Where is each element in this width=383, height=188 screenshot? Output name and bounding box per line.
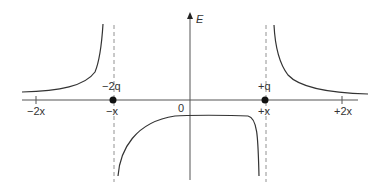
charge-label-negative: −2q: [102, 81, 121, 92]
charge-positive-q: [262, 97, 269, 104]
y-axis-label: E: [196, 14, 203, 25]
field-diagram: [0, 0, 383, 188]
curve-middle-region: [118, 115, 259, 176]
curve-right-region: [274, 25, 368, 94]
tick-label-plus-2x: +2x: [334, 106, 352, 117]
charge-label-positive: +q: [258, 81, 271, 92]
tick-label-minus-x: −x: [106, 106, 118, 117]
tick-label-plus-x: +x: [258, 106, 270, 117]
tick-label-minus-2x: −2x: [27, 106, 45, 117]
charge-negative-2q: [110, 97, 117, 104]
curve-left-region: [22, 24, 103, 92]
y-axis-arrow-icon: [187, 12, 193, 19]
origin-label: 0: [178, 103, 184, 114]
